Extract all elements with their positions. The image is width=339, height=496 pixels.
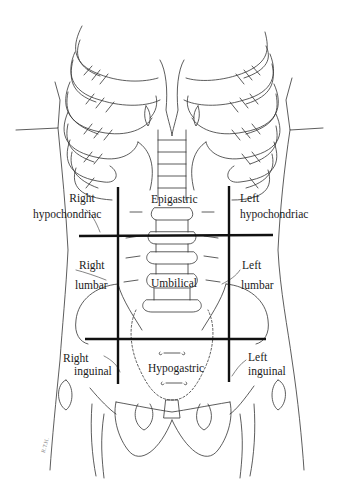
label-hypogastric: Hypogastric bbox=[148, 363, 204, 375]
label-left-hypochondriac-1: Left bbox=[240, 193, 259, 205]
label-right-lumbar-1: Right bbox=[79, 260, 105, 272]
label-left-inguinal-2: inguinal bbox=[248, 366, 286, 378]
pelvis bbox=[59, 284, 286, 478]
abdominal-regions-diagram: Right hypochondriac Epigastric Left hypo… bbox=[0, 0, 339, 496]
label-right-lumbar-2: lumbar bbox=[75, 280, 108, 292]
torso-line-art bbox=[0, 0, 339, 496]
label-umbilical: Umbilical bbox=[151, 278, 197, 290]
left-rib-cage bbox=[184, 32, 280, 200]
label-left-lumbar-1: Left bbox=[242, 260, 261, 272]
label-left-lumbar-2: lumbar bbox=[241, 280, 274, 292]
label-right-hypochondriac-2: hypochondriac bbox=[33, 209, 101, 221]
label-epigastric: Epigastric bbox=[151, 194, 198, 206]
label-right-inguinal-2: inguinal bbox=[74, 366, 112, 378]
label-left-hypochondriac-2: hypochondriac bbox=[240, 209, 308, 221]
label-right-hypochondriac-1: Right bbox=[62, 193, 102, 205]
grid-horizontal-upper bbox=[79, 235, 273, 236]
label-right-inguinal-1: Right bbox=[63, 353, 89, 365]
right-rib-cage bbox=[64, 26, 160, 200]
sternum bbox=[160, 60, 184, 136]
label-left-inguinal-1: Left bbox=[248, 352, 267, 364]
